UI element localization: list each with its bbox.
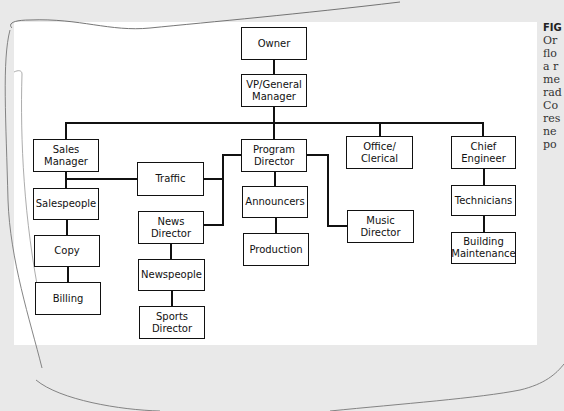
- caption-line: ne: [543, 125, 564, 138]
- connector-program-music-v: [327, 154, 329, 226]
- node-sports-director: Sports Director: [139, 306, 205, 339]
- node-vp-general-manager: VP/General Manager: [241, 74, 307, 107]
- caption-line: po: [543, 138, 564, 151]
- node-production: Production: [243, 233, 309, 266]
- connector-bar-program: [273, 122, 275, 139]
- connector-salespeople-copy: [66, 219, 68, 235]
- node-music-director: Music Director: [347, 210, 414, 243]
- node-program-director: Program Director: [241, 139, 307, 172]
- connector-program-spine-vertical: [222, 154, 224, 226]
- connector-owner-vp: [273, 59, 275, 74]
- caption-line: Co: [543, 99, 564, 112]
- caption-line: a r: [543, 60, 564, 73]
- node-owner: Owner: [241, 27, 307, 60]
- connector-spine-news: [203, 224, 224, 226]
- node-billing: Billing: [35, 282, 101, 315]
- caption-line: res: [543, 112, 564, 125]
- connector-program-spine-top: [222, 154, 241, 156]
- node-office-clerical: Office/ Clerical: [346, 136, 413, 169]
- node-technicians: Technicians: [451, 185, 516, 216]
- connector-news-newspeople: [170, 243, 172, 259]
- node-sales-manager: Sales Manager: [33, 139, 99, 172]
- caption-line: rad: [543, 86, 564, 99]
- connector-sales-traffic: [65, 178, 137, 180]
- connector-traffic-spine: [203, 178, 223, 180]
- connector-chief-technicians: [483, 168, 485, 185]
- node-copy: Copy: [34, 235, 100, 267]
- connector-program-announcers: [274, 172, 276, 186]
- connector-program-music-h1: [306, 154, 328, 156]
- node-salespeople: Salespeople: [33, 188, 99, 220]
- connector-program-music-h2: [327, 225, 347, 227]
- node-building-maintenance: Building Maintenance: [451, 232, 516, 264]
- caption-line: flo: [543, 47, 564, 60]
- caption-line: me: [543, 73, 564, 86]
- connector-announcers-production: [275, 217, 277, 233]
- node-traffic: Traffic: [137, 162, 204, 196]
- connector-bar-sales: [65, 122, 67, 139]
- connector-sales-salespeople: [65, 172, 67, 188]
- node-news-director: News Director: [138, 211, 204, 244]
- connector-technicians-building: [483, 215, 485, 232]
- figure-label: FIG: [543, 21, 564, 34]
- connector-bar-office: [379, 122, 381, 136]
- connector-newspeople-sports: [171, 290, 173, 306]
- caption-line: Or: [543, 34, 564, 47]
- connector-copy-billing: [67, 266, 69, 282]
- node-chief-engineer: Chief Engineer: [451, 136, 516, 169]
- node-newspeople: Newspeople: [138, 259, 205, 291]
- figure-caption: FIG Or flo a r me rad Co res ne po: [543, 21, 564, 151]
- connector-bar-chief: [482, 122, 484, 136]
- node-announcers: Announcers: [242, 186, 308, 218]
